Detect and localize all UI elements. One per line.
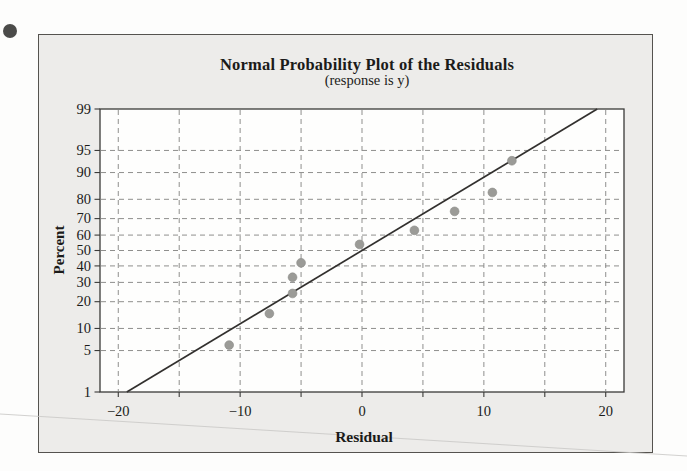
y-tick-label: 30 [77, 274, 92, 290]
x-tick-label: 20 [598, 403, 613, 419]
data-point [297, 258, 306, 267]
chart-subtitle: (response is y) [325, 72, 410, 89]
y-tick-label: 5 [84, 342, 91, 358]
y-tick-label: 60 [77, 227, 92, 243]
data-point [355, 240, 364, 249]
y-tick-label: 50 [77, 242, 92, 258]
page: −20−1001020151020304050607080909599 Norm… [0, 0, 687, 471]
data-point [288, 289, 297, 298]
data-point [225, 341, 234, 350]
y-tick-label: 20 [77, 293, 92, 309]
x-tick-label: −10 [229, 403, 252, 419]
y-tick-label: 40 [77, 258, 92, 274]
x-tick-label: −20 [107, 403, 130, 419]
y-tick-label: 1 [84, 384, 91, 400]
data-point [507, 156, 516, 165]
y-tick-label: 95 [77, 142, 92, 158]
data-point [488, 188, 497, 197]
data-point [410, 226, 419, 235]
y-tick-label: 80 [77, 191, 92, 207]
y-tick-label: 99 [77, 101, 92, 117]
data-point [265, 309, 274, 318]
chart-graphics: −20−1001020151020304050607080909599 [77, 101, 625, 419]
x-axis-label: Residual [335, 428, 393, 446]
y-axis-label: Percent [51, 226, 68, 275]
x-tick-label: 0 [358, 403, 365, 419]
x-tick-label: 10 [477, 403, 492, 419]
data-point [288, 273, 297, 282]
y-tick-label: 90 [77, 164, 92, 180]
y-tick-label: 70 [77, 210, 92, 226]
data-point [450, 207, 459, 216]
y-tick-label: 10 [77, 320, 92, 336]
